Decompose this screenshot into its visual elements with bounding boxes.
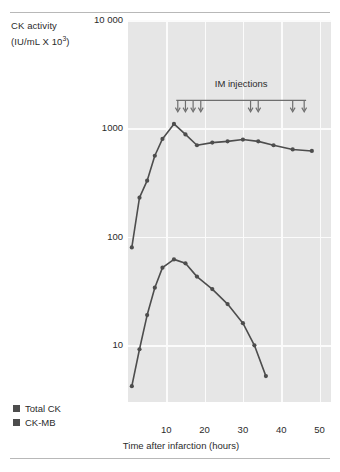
data-point (310, 149, 314, 153)
x-axis-tick-label: 20 (193, 424, 217, 435)
data-point (241, 137, 245, 141)
series-ck-mb (130, 257, 268, 388)
data-point (210, 287, 214, 291)
data-point (252, 343, 256, 347)
data-point (153, 154, 157, 158)
data-point (225, 302, 229, 306)
data-point (130, 384, 134, 388)
y-axis-title-line2: (IU/mL X 103) (11, 32, 70, 48)
data-point (160, 266, 164, 270)
data-point (130, 245, 134, 249)
series-total-ck (130, 122, 314, 250)
x-axis-tick-label: 10 (154, 424, 178, 435)
y-axis-tick-label: 10 (74, 339, 123, 350)
plot-area (128, 20, 331, 402)
legend-swatch-total-ck (13, 405, 20, 412)
legend-swatch-ck-mb (13, 419, 20, 426)
y-axis-tick-label: 100 (74, 231, 123, 242)
data-point (172, 122, 176, 126)
data-point (183, 132, 187, 136)
chart-canvas (128, 20, 331, 402)
data-point (195, 143, 199, 147)
series-line (132, 124, 312, 247)
data-point (172, 257, 176, 261)
y-axis-tick-label: 10 000 (74, 14, 123, 25)
data-point (183, 261, 187, 265)
legend-label-total-ck: Total CK (25, 402, 61, 416)
data-point (241, 321, 245, 325)
y-axis-title-units-pre: (IU/mL X 10 (11, 36, 62, 47)
im-injections-bracket (175, 100, 306, 111)
data-point (271, 143, 275, 147)
y-axis-title: CK activity (IU/mL X 103) (11, 19, 70, 48)
legend-label-ck-mb: CK-MB (25, 416, 56, 430)
x-axis-tick-label: 50 (308, 424, 332, 435)
bottom-divider-rule (10, 458, 330, 459)
data-point (137, 347, 141, 351)
x-axis-tick-label: 40 (269, 424, 293, 435)
data-point (264, 374, 268, 378)
data-point (195, 275, 199, 279)
legend-item-ck-mb: CK-MB (13, 416, 61, 430)
data-point (137, 196, 141, 200)
data-point (256, 139, 260, 143)
data-point (160, 137, 164, 141)
series-line (132, 259, 266, 386)
y-axis-title-units-post: ) (66, 36, 69, 47)
top-divider-rule (10, 12, 330, 13)
data-point (291, 147, 295, 151)
y-axis-title-line1: CK activity (11, 19, 70, 32)
chart-legend: Total CK CK-MB (13, 402, 61, 429)
y-axis-tick-label: 1000 (74, 122, 123, 133)
im-injections-annotation-label: IM injections (215, 78, 268, 89)
data-point (210, 141, 214, 145)
data-point (145, 179, 149, 183)
data-point (145, 313, 149, 317)
data-point (225, 139, 229, 143)
data-point (153, 286, 157, 290)
x-axis-tick-label: 30 (231, 424, 255, 435)
legend-item-total-ck: Total CK (13, 402, 61, 416)
x-axis-title: Time after infarction (hours) (0, 440, 340, 451)
